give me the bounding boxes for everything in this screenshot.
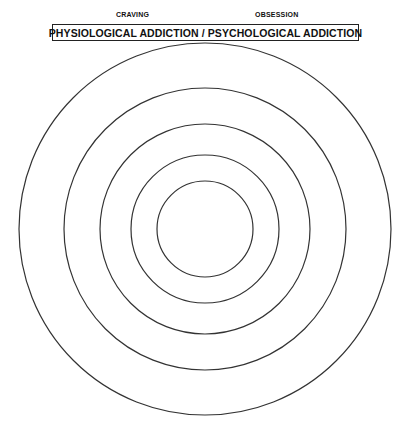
ring-second [64, 88, 346, 370]
ring-fourth [131, 155, 279, 303]
addiction-title-text: PHYSIOLOGICAL ADDICTION / PSYCHOLOGICAL … [49, 27, 363, 39]
concentric-circles-diagram [0, 0, 407, 433]
ring-inner [157, 181, 253, 277]
ring-outer [19, 43, 391, 415]
addiction-title-box: PHYSIOLOGICAL ADDICTION / PSYCHOLOGICAL … [52, 24, 359, 41]
